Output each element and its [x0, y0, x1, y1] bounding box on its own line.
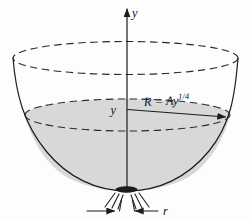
water-height-label: y [108, 103, 116, 117]
draining-bowl-svg: y y R = Ay1/4 r [0, 0, 250, 221]
drain-radius-label: r [163, 204, 168, 218]
bowl-rim-ellipse [13, 42, 238, 75]
radius-formula-exponent: 1/4 [178, 91, 190, 101]
y-axis-label: y [130, 6, 138, 20]
drain-spray [105, 193, 149, 211]
radius-formula-base: R = Ay [143, 93, 180, 109]
draining-bowl-figure: y y R = Ay1/4 r [0, 0, 250, 221]
